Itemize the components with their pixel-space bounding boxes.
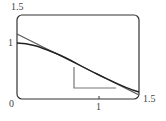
x-tick-label-one: 1 <box>96 102 101 112</box>
step-path <box>74 67 116 88</box>
y-tick-label-one: 1 <box>8 38 13 48</box>
curve <box>17 43 139 92</box>
origin-label: 0 <box>9 99 14 109</box>
x-tick-label-right: 1.5 <box>143 94 156 104</box>
y-tick-label-top: 1.5 <box>11 2 24 12</box>
chart-plot <box>0 0 166 121</box>
